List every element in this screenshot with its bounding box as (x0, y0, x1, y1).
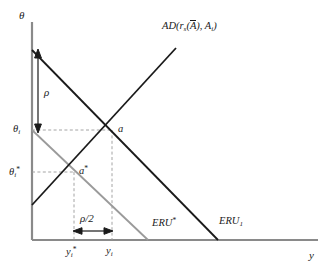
ad-label-a-bar: A (190, 21, 196, 32)
eru-star-label-sup: * (172, 216, 176, 225)
point-a-star-sup: * (84, 164, 88, 173)
tick-theta-i-star: θi* (9, 166, 20, 179)
eru-star-label-main: ERU (152, 217, 172, 228)
tick-theta-i-star-sup: * (16, 165, 20, 174)
point-a-label: a (118, 124, 123, 135)
tick-theta-i-sub: i (18, 128, 20, 136)
x-axis-label: y (309, 250, 314, 261)
eru1-label-sub: 1 (239, 220, 243, 228)
ad-label-prefix: AD( (162, 20, 180, 31)
tick-y-i: yi (106, 246, 113, 258)
eru1-curve-label: ERU1 (219, 216, 243, 228)
ad-curve-label: AD(rs(A), Ai) (162, 21, 217, 33)
tick-y-i-sub: i (111, 250, 113, 258)
tick-y-i-star-sup: * (73, 245, 77, 254)
axes-group (32, 22, 318, 240)
y-axis-label: θ (19, 10, 24, 21)
rho-half-label: ρ/2 (80, 213, 94, 224)
eru-star-curve-label: ERU* (152, 217, 176, 229)
eru1-label-main: ERU (219, 215, 239, 226)
plot-canvas (0, 0, 327, 276)
rho-label: ρ (44, 87, 49, 98)
rho-arrow (35, 49, 42, 133)
eru1-curve (32, 50, 218, 240)
rho-half-arrow (73, 228, 113, 235)
economics-diagram-figure: θ y AD(rs(A), Ai) ERU1 ERU* a a* θi θi* … (0, 0, 327, 276)
tick-y-i-star: yi* (66, 246, 76, 259)
guide-lines-group (32, 130, 112, 240)
point-a-star-label: a* (79, 165, 88, 177)
tick-theta-i: θi (13, 124, 20, 136)
ad-label-suffix: ) (213, 20, 217, 31)
